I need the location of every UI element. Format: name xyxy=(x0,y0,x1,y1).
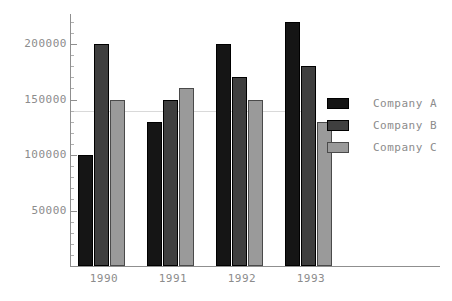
bar-1990-series-2 xyxy=(110,100,125,267)
y-tick-minor xyxy=(71,188,74,189)
legend-item: Company C xyxy=(327,136,437,158)
legend-item: Company A xyxy=(327,92,437,114)
y-tick-minor xyxy=(71,222,74,223)
bar-1990-series-0 xyxy=(78,155,93,266)
legend-label-company-a: Company A xyxy=(373,97,437,110)
y-tick-major xyxy=(71,100,77,101)
y-tick-major xyxy=(71,44,77,45)
y-tick-minor xyxy=(71,255,74,256)
y-tick-minor xyxy=(71,244,74,245)
legend-swatch-company-b xyxy=(327,120,349,131)
legend-label-company-b: Company B xyxy=(373,119,437,132)
y-tick-label: 100000 xyxy=(24,148,67,161)
y-tick-label: 150000 xyxy=(24,93,67,106)
y-tick-minor xyxy=(71,22,74,23)
x-tick-label: 1992 xyxy=(212,272,272,285)
y-tick-label: 50000 xyxy=(31,204,67,217)
bar-1993-series-1 xyxy=(301,66,316,266)
y-tick-minor xyxy=(71,133,74,134)
y-tick-minor xyxy=(71,144,74,145)
y-tick-minor xyxy=(71,177,74,178)
y-tick-minor xyxy=(71,122,74,123)
x-tick-label: 1993 xyxy=(281,272,341,285)
y-tick-minor xyxy=(71,166,74,167)
bar-1993-series-0 xyxy=(285,22,300,266)
bar-1991-series-1 xyxy=(163,100,178,267)
y-tick-minor xyxy=(71,111,74,112)
legend-item: Company B xyxy=(327,114,437,136)
legend-swatch-company-a xyxy=(327,98,349,109)
bar-1992-series-1 xyxy=(232,77,247,266)
bar-chart: 20000015000010000050000 1990199119921993… xyxy=(0,0,452,301)
y-tick-major xyxy=(71,211,77,212)
x-axis-line xyxy=(70,266,440,267)
y-tick-minor xyxy=(71,233,74,234)
y-tick-label: 200000 xyxy=(24,37,67,50)
y-tick-minor xyxy=(71,55,74,56)
bar-1992-series-2 xyxy=(248,100,263,267)
x-tick-label: 1991 xyxy=(143,272,203,285)
y-tick-minor xyxy=(71,199,74,200)
x-tick-label: 1990 xyxy=(74,272,134,285)
legend-swatch-company-c xyxy=(327,142,349,153)
legend-label-company-c: Company C xyxy=(373,141,437,154)
bar-1992-series-0 xyxy=(216,44,231,266)
y-axis-line xyxy=(70,14,71,267)
chart-legend: Company A Company B Company C xyxy=(327,92,437,158)
y-tick-minor xyxy=(71,33,74,34)
bar-1990-series-1 xyxy=(94,44,109,266)
bar-1991-series-2 xyxy=(179,88,194,266)
y-tick-major xyxy=(71,155,77,156)
bar-1991-series-0 xyxy=(147,122,162,266)
y-tick-minor xyxy=(71,66,74,67)
y-tick-minor xyxy=(71,77,74,78)
y-tick-minor xyxy=(71,88,74,89)
